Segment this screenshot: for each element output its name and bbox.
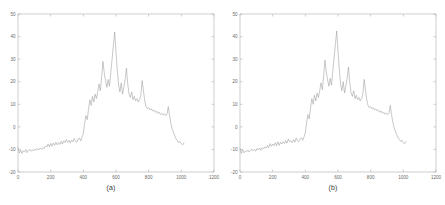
y-tick-label: -20 [9, 170, 16, 175]
x-tick-label: 600 [112, 175, 120, 180]
chart-panel-a: 020040060080010001200-20-1001020304050 (… [0, 0, 222, 205]
figure-container: 020040060080010001200-20-1001020304050 (… [0, 0, 445, 205]
x-tick-label: 800 [367, 175, 375, 180]
data-series-line [240, 31, 406, 154]
y-tick-label: 50 [232, 12, 238, 17]
x-tick-label: 600 [334, 175, 342, 180]
y-tick-label: 30 [232, 57, 238, 62]
x-tick-label: 200 [47, 175, 55, 180]
y-tick-label: -10 [231, 147, 238, 152]
y-tick-label: 50 [10, 12, 16, 17]
y-tick-label: 0 [235, 125, 238, 130]
x-tick-label: 400 [79, 175, 87, 180]
x-tick-label: 0 [17, 175, 20, 180]
y-tick-label: 30 [10, 57, 16, 62]
y-tick-label: 10 [10, 102, 16, 107]
plot-frame [18, 14, 214, 172]
plot-frame [240, 14, 436, 172]
x-tick-label: 1200 [431, 175, 442, 180]
x-tick-label: 1000 [398, 175, 409, 180]
y-tick-label: 40 [232, 34, 238, 39]
y-tick-label: 40 [10, 34, 16, 39]
y-tick-label: 20 [232, 79, 238, 84]
y-tick-label: -20 [231, 170, 238, 175]
x-tick-label: 1200 [209, 175, 220, 180]
panel-caption-a: (a) [0, 184, 222, 191]
chart-panel-b: 020040060080010001200-20-1001020304050 (… [222, 0, 444, 205]
y-tick-label: 10 [232, 102, 238, 107]
x-tick-label: 800 [145, 175, 153, 180]
y-tick-label: 20 [10, 79, 16, 84]
y-tick-label: -10 [9, 147, 16, 152]
chart-svg-a: 020040060080010001200-20-1001020304050 [0, 0, 222, 186]
plot-area-b: 020040060080010001200-20-1001020304050 [222, 0, 444, 186]
x-tick-label: 1000 [176, 175, 187, 180]
chart-svg-b: 020040060080010001200-20-1001020304050 [222, 0, 444, 186]
panel-caption-b: (b) [222, 184, 444, 191]
x-tick-label: 200 [269, 175, 277, 180]
y-tick-label: 0 [13, 125, 16, 130]
data-series-line [18, 32, 184, 153]
x-tick-label: 400 [301, 175, 309, 180]
x-tick-label: 0 [239, 175, 242, 180]
plot-area-a: 020040060080010001200-20-1001020304050 [0, 0, 222, 186]
